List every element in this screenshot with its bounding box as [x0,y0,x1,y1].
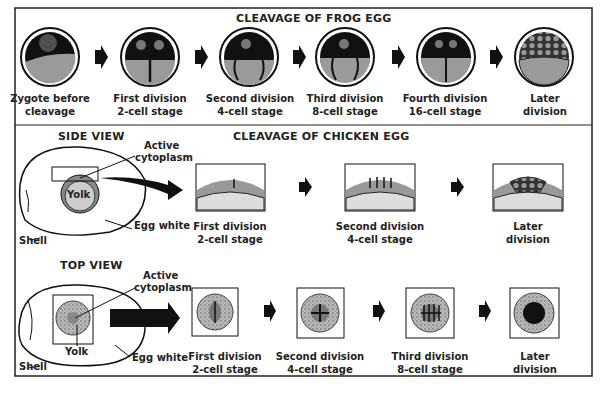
frog-stage-label: Third division8-cell stage [300,92,390,118]
chicken-side-4cell [345,164,415,211]
frog-stage-label: Second division4-cell stage [205,92,295,118]
top-view-title: TOP VIEW [60,259,123,272]
side-stage-label: Laterdivision [488,220,568,246]
chicken-section-title: CLEAVAGE OF CHICKEN EGG [233,130,409,143]
diagram-artwork [0,0,605,397]
top-stage-label: Second division4-cell stage [275,350,365,376]
side-stage-label: First division2-cell stage [185,220,275,246]
label-cytoplasm: cytoplasm [134,282,192,293]
chicken-side-later [493,164,563,211]
top-stage-label: Laterdivision [495,350,575,376]
chicken-top-8cell [406,288,454,338]
frog-egg-2cell [121,28,179,86]
label-yolk: Yolk [65,346,88,357]
label-active: Active [143,270,178,281]
side-stage-label: Second division4-cell stage [335,220,425,246]
label-active: Active [144,140,179,151]
frog-stage-label: Fourth division16-cell stage [400,92,490,118]
frog-section-title: CLEAVAGE OF FROG EGG [236,12,391,25]
frog-stage-label: Zygote beforecleavage [10,92,90,118]
frog-egg-16cell [417,28,475,86]
label-yolk: Yolk [67,189,90,200]
frog-egg-4cell [220,28,278,86]
chicken-top-later [510,288,559,338]
frog-egg-8cell [316,28,374,86]
frog-egg-later [515,28,573,86]
frog-egg-zygote [21,28,79,86]
chicken-top-2cell [192,288,238,336]
frog-stage-label: First division2-cell stage [110,92,190,118]
chicken-side-2cell [196,164,265,211]
side-view-title: SIDE VIEW [58,130,125,143]
top-stage-label: Third division8-cell stage [385,350,475,376]
label-shell: Shell [19,235,47,246]
label-shell: Shell [19,361,47,372]
frog-stage-label: Laterdivision [505,92,585,118]
label-cytoplasm: cytoplasm [135,152,193,163]
top-stage-label: First division2-cell stage [180,350,270,376]
label-egg-white: Egg white [134,220,190,231]
chicken-top-4cell [297,288,344,338]
